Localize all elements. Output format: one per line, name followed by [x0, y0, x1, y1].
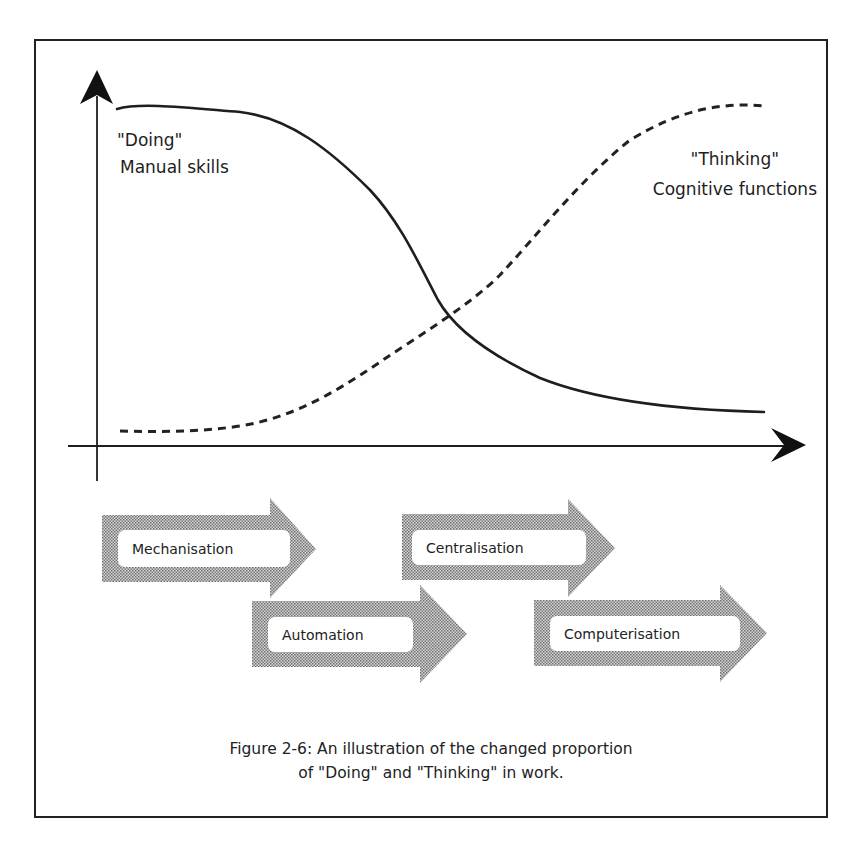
- caption-line-1: Figure 2-6: An illustration of the chang…: [34, 737, 828, 761]
- figure-caption: Figure 2-6: An illustration of the chang…: [34, 737, 828, 785]
- doing-label-title: "Doing": [117, 128, 182, 153]
- thinking-label-title: "Thinking": [691, 147, 779, 172]
- stage-label-centralisation: Centralisation: [412, 530, 586, 565]
- stage-text: Centralisation: [426, 540, 524, 556]
- stage-label-automation: Automation: [268, 617, 413, 652]
- thinking-label-subtitle: Cognitive functions: [653, 177, 817, 202]
- stage-text: Automation: [282, 627, 364, 643]
- caption-line-2: of "Doing" and "Thinking" in work.: [34, 761, 828, 785]
- doing-label-subtitle: Manual skills: [120, 155, 229, 180]
- stage-text: Computerisation: [564, 626, 680, 642]
- stage-label-mechanisation: Mechanisation: [118, 530, 290, 567]
- stage-label-computerisation: Computerisation: [550, 616, 740, 651]
- stage-text: Mechanisation: [132, 541, 233, 557]
